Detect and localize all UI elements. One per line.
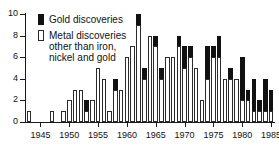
bar-segment-metal: [223, 79, 228, 122]
bar-segment-gold: [188, 46, 193, 57]
bar-group: [228, 68, 233, 122]
bar-group: [171, 57, 176, 122]
bar-segment-metal: [228, 79, 233, 122]
x-axis-tick: [98, 123, 99, 127]
bar-segment-gold: [263, 79, 268, 111]
bar-segment-metal: [194, 68, 199, 122]
bar-segment-metal: [252, 111, 257, 122]
bar-group: [136, 14, 141, 122]
x-axis-tick: [213, 123, 214, 127]
bar-group: [90, 100, 95, 122]
bar-group: [246, 90, 251, 122]
bar-segment-gold: [252, 79, 257, 111]
bar-group: [50, 111, 55, 122]
bar-segment-gold: [211, 46, 216, 57]
y-axis-tick: [20, 122, 25, 123]
bar-segment-gold: [257, 100, 262, 111]
bar-segment-metal: [188, 57, 193, 122]
y-axis-tick: [20, 100, 25, 101]
bar-group: [252, 79, 257, 122]
bar-group: [205, 46, 210, 122]
bar-group: [182, 46, 187, 122]
bar-group: [194, 68, 199, 122]
bar-group: [159, 68, 164, 122]
bar-group: [257, 100, 262, 122]
y-axis-tick: [20, 36, 25, 37]
bar-group: [96, 68, 101, 122]
bar-segment-metal: [84, 111, 89, 122]
bar-segment-metal: [211, 57, 216, 122]
bar-group: [165, 57, 170, 122]
bar-group: [119, 90, 124, 122]
bar-group: [125, 57, 130, 122]
y-axis-tick-label: 8: [0, 31, 18, 40]
bar-group: [211, 46, 216, 122]
x-axis-tick: [40, 123, 41, 127]
bar-segment-gold: [182, 46, 187, 68]
bar-segment-metal: [234, 79, 239, 122]
bar-segment-gold: [217, 36, 222, 58]
bar-group: [113, 79, 118, 122]
x-axis-tick: [127, 123, 128, 127]
bar-segment-metal: [130, 46, 135, 122]
bar-segment-gold: [153, 36, 158, 47]
bar-group: [263, 79, 268, 122]
bar-segment-gold: [269, 90, 274, 112]
bar-segment-gold: [84, 100, 89, 111]
bar-group: [27, 111, 32, 122]
x-axis-tick-label: 1985: [251, 130, 279, 140]
bar-group: [153, 36, 158, 122]
bar-segment-metal: [269, 111, 274, 122]
y-axis-tick-label: 0: [0, 117, 18, 126]
bar-group: [177, 36, 182, 122]
bar-segment-metal: [148, 36, 153, 122]
bar-segment-metal: [119, 90, 124, 122]
bar-segment-metal: [67, 100, 72, 122]
bar-segment-metal: [153, 46, 158, 122]
bar-group: [73, 90, 78, 122]
bar-segment-metal: [217, 57, 222, 122]
bar-group: [102, 79, 107, 122]
bar-segment-metal: [61, 111, 66, 122]
y-axis-tick-label: 4: [0, 74, 18, 83]
bar-segment-metal: [136, 25, 141, 122]
bar-segment-metal: [246, 100, 251, 122]
bar-segment-gold: [136, 14, 141, 25]
x-axis-tick: [69, 123, 70, 127]
bar-group: [200, 100, 205, 122]
y-axis-tick-label: 2: [0, 95, 18, 104]
bar-segment-gold: [246, 90, 251, 101]
bar-segment-metal: [159, 79, 164, 122]
bar-segment-metal: [171, 57, 176, 122]
x-axis-tick: [271, 123, 272, 127]
gold-and-metal-discoveries-chart: Gold discoveries Metal discoveries other…: [0, 0, 279, 151]
bar-group: [84, 100, 89, 122]
bar-group: [67, 100, 72, 122]
bar-segment-metal: [200, 100, 205, 122]
bar-segment-gold: [205, 46, 210, 78]
bar-segment-metal: [182, 68, 187, 122]
bar-group: [217, 36, 222, 122]
bar-segment-metal: [113, 90, 118, 122]
bar-segment-metal: [165, 57, 170, 122]
bar-segment-metal: [73, 90, 78, 122]
bar-segment-metal: [90, 100, 95, 122]
x-axis-line: [25, 122, 275, 123]
bar-group: [240, 57, 245, 122]
bar-group: [79, 90, 84, 122]
bar-segment-metal: [263, 111, 268, 122]
bar-segment-metal: [102, 79, 107, 122]
plot-area: [26, 14, 274, 122]
bar-segment-gold: [142, 68, 147, 79]
bar-segment-gold: [228, 68, 233, 79]
bar-segment-metal: [27, 111, 32, 122]
bar-group: [188, 46, 193, 122]
bar-segment-metal: [205, 79, 210, 122]
y-axis-tick-label: 10: [0, 9, 18, 18]
bar-group: [107, 111, 112, 122]
bar-segment-metal: [177, 46, 182, 122]
bar-group: [61, 111, 66, 122]
bar-segment-gold: [177, 36, 182, 47]
y-axis-tick-label: 6: [0, 52, 18, 61]
y-axis-tick: [20, 14, 25, 15]
